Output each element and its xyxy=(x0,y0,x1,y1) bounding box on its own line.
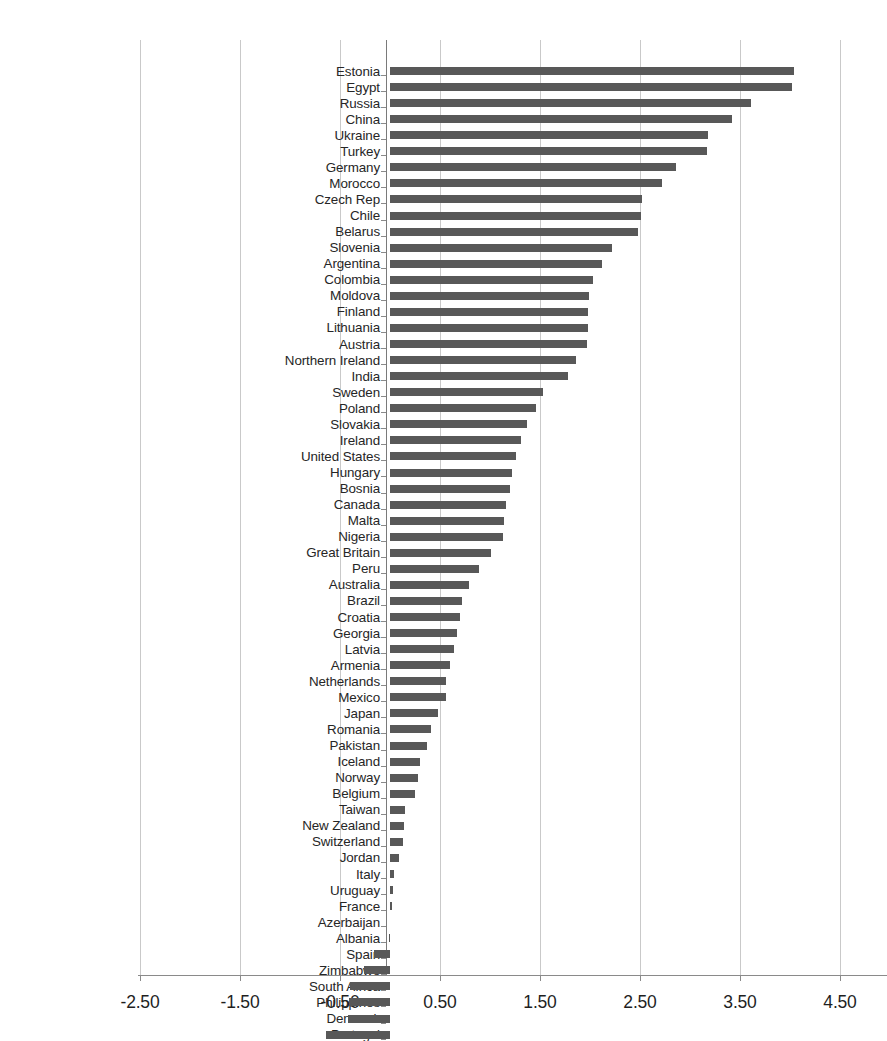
bar xyxy=(390,822,404,830)
category-axis-tick xyxy=(381,284,386,285)
category-axis-tick xyxy=(381,412,386,413)
category-label: Romania xyxy=(20,723,380,736)
bar xyxy=(390,276,593,284)
category-label: Spain xyxy=(20,948,380,961)
bar xyxy=(390,629,457,637)
bar xyxy=(374,950,390,958)
category-axis-tick xyxy=(381,637,386,638)
category-label: Iceland xyxy=(20,755,380,768)
category-label: Russia xyxy=(20,97,380,110)
bar xyxy=(390,613,460,621)
bar xyxy=(390,228,638,236)
category-axis-tick xyxy=(381,107,386,108)
bar xyxy=(390,854,399,862)
bar xyxy=(390,645,454,653)
category-axis-tick xyxy=(381,557,386,558)
category-label: Morocco xyxy=(20,177,380,190)
category-label: Northern Ireland xyxy=(20,354,380,367)
category-label: Netherlands xyxy=(20,675,380,688)
category-axis-tick xyxy=(381,525,386,526)
category-axis-tick xyxy=(381,589,386,590)
category-label: Colombia xyxy=(20,273,380,286)
category-label: Great Britain xyxy=(20,546,380,559)
category-axis-tick xyxy=(381,444,386,445)
category-label: Moldova xyxy=(20,289,380,302)
category-label: Ireland xyxy=(20,434,380,447)
category-label: Sweden xyxy=(20,386,380,399)
category-axis-tick xyxy=(381,798,386,799)
x-axis-tick-label: 4.50 xyxy=(795,992,885,1013)
bar xyxy=(326,1031,390,1039)
bar xyxy=(390,420,527,428)
category-axis-tick xyxy=(381,171,386,172)
bar xyxy=(390,661,450,669)
bar xyxy=(390,886,393,894)
category-label: Nigeria xyxy=(20,530,380,543)
category-axis-tick xyxy=(381,509,386,510)
category-axis-tick xyxy=(381,541,386,542)
bar xyxy=(390,147,707,155)
bar xyxy=(390,790,415,798)
category-label: Slovenia xyxy=(20,241,380,254)
category-label: Zimbabwe xyxy=(20,964,380,977)
category-axis-tick xyxy=(381,123,386,124)
category-label: Argentina xyxy=(20,257,380,270)
category-axis-tick xyxy=(381,701,386,702)
bar xyxy=(390,581,469,589)
category-axis-tick xyxy=(381,846,386,847)
bar xyxy=(390,404,536,412)
category-axis-tick xyxy=(381,187,386,188)
category-axis-tick xyxy=(381,300,386,301)
bar xyxy=(390,324,588,332)
category-label: Pakistan xyxy=(20,739,380,752)
category-label: Italy xyxy=(20,868,380,881)
category-label: Denmark xyxy=(20,1012,380,1025)
category-label: France xyxy=(20,900,380,913)
bar xyxy=(390,356,576,364)
category-axis-tick xyxy=(381,910,386,911)
bar xyxy=(390,758,420,766)
category-label: Poland xyxy=(20,402,380,415)
category-axis-tick xyxy=(381,653,386,654)
category-label: Latvia xyxy=(20,643,380,656)
category-axis-tick xyxy=(381,669,386,670)
category-label: Armenia xyxy=(20,659,380,672)
x-axis-tick-label: 3.50 xyxy=(695,992,785,1013)
bar xyxy=(390,436,521,444)
bar xyxy=(390,67,794,75)
category-axis-tick xyxy=(381,573,386,574)
bar xyxy=(350,982,390,990)
bar xyxy=(390,485,510,493)
category-label: Germany xyxy=(20,161,380,174)
value-axis-line xyxy=(386,40,387,975)
category-label: Czech Rep xyxy=(20,193,380,206)
category-axis-tick xyxy=(381,493,386,494)
x-gridline xyxy=(740,40,741,975)
category-label: United States xyxy=(20,450,380,463)
bar xyxy=(390,806,405,814)
bar xyxy=(390,742,427,750)
bar xyxy=(390,244,612,252)
bar xyxy=(390,372,568,380)
category-axis-tick xyxy=(381,75,386,76)
bar xyxy=(390,501,506,509)
category-label: Austria xyxy=(20,338,380,351)
category-label: Estonia xyxy=(20,65,380,78)
bar xyxy=(390,677,446,685)
category-axis-tick xyxy=(381,621,386,622)
bar xyxy=(390,693,446,701)
category-axis-tick xyxy=(381,155,386,156)
bar xyxy=(390,709,438,717)
category-axis-tick xyxy=(381,252,386,253)
bar xyxy=(390,131,708,139)
category-label: Belarus xyxy=(20,225,380,238)
category-label: Brazil xyxy=(20,594,380,607)
category-axis-tick xyxy=(381,1023,386,1024)
bar xyxy=(390,469,512,477)
x-gridline xyxy=(840,40,841,975)
category-label: Ukraine xyxy=(20,129,380,142)
category-label: New Zealand xyxy=(20,819,380,832)
category-label: Lithuania xyxy=(20,321,380,334)
bar xyxy=(390,212,641,220)
category-axis-tick xyxy=(381,476,386,477)
